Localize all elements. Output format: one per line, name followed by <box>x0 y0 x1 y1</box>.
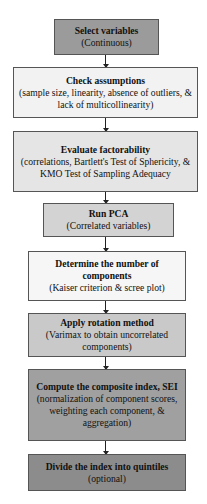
step-detail: (optional) <box>88 473 126 485</box>
step-title: Apply rotation method <box>60 317 154 329</box>
step-title: Determine the number of components <box>33 258 181 282</box>
step-compute-index: Compute the composite index, SEI (normal… <box>28 369 186 441</box>
step-detail: (Continuous) <box>81 37 132 49</box>
step-run-pca: Run PCA (Correlated variables) <box>43 203 174 237</box>
step-select-variables: Select variables (Continuous) <box>54 19 159 55</box>
step-determine-components: Determine the number of components (Kais… <box>28 251 186 301</box>
step-detail: (Correlated variables) <box>67 220 151 232</box>
step-check-assumptions: Check assumptions (sample size, linearit… <box>13 67 198 118</box>
step-evaluate-factorability: Evaluate factorability (correlations, Ba… <box>13 131 198 192</box>
arrow-down-icon <box>105 237 106 251</box>
step-detail: (correlations, Bartlett's Test of Spheri… <box>18 156 193 180</box>
step-title: Divide the index into quintiles <box>46 461 169 473</box>
arrow-down-icon <box>105 441 106 454</box>
step-detail: (normalization of component scores, weig… <box>33 393 181 429</box>
arrow-down-icon <box>105 55 106 67</box>
step-detail: (Kaiser criterion & scree plot) <box>49 282 165 294</box>
step-title: Run PCA <box>89 208 129 220</box>
step-detail: (sample size, linearity, absence of outl… <box>18 87 193 111</box>
step-title: Compute the composite index, SEI <box>36 381 178 393</box>
step-detail: (Varimax to obtain uncorrelated componen… <box>33 329 181 353</box>
step-title: Check assumptions <box>66 75 145 87</box>
step-apply-rotation: Apply rotation method (Varimax to obtain… <box>28 313 186 357</box>
arrow-down-icon <box>105 301 106 313</box>
arrow-down-icon <box>105 192 106 203</box>
step-divide-quintiles: Divide the index into quintiles (optiona… <box>28 454 186 491</box>
step-title: Evaluate factorability <box>61 144 150 156</box>
step-title: Select variables <box>75 25 139 37</box>
arrow-down-icon <box>105 357 106 369</box>
arrow-down-icon <box>105 118 106 131</box>
